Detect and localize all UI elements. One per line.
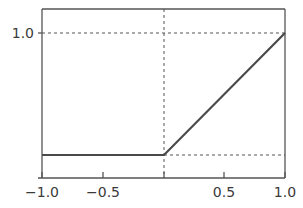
x-tick-label-neg1: −1.0: [25, 184, 59, 200]
y-tick-label-1: 1.0: [12, 25, 34, 41]
x-tick-label-1: 1.0: [274, 184, 296, 200]
x-tick-label-05: 0.5: [213, 184, 235, 200]
relu-chart: 1.0 −1.0 −0.5 0.5 1.0: [0, 0, 303, 208]
x-tick-label-neg05: −0.5: [86, 184, 120, 200]
